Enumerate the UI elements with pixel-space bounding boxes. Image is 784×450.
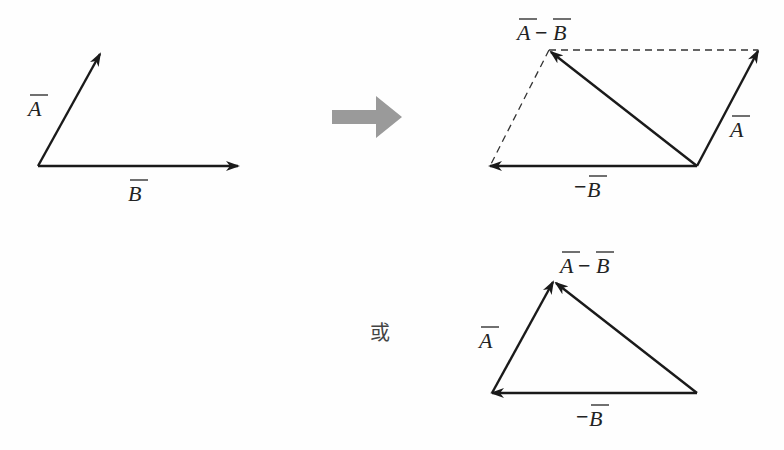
dashed-edge-left <box>490 50 549 166</box>
vector-a-arrow <box>697 51 758 166</box>
vector-diagram: A B A − B A − B 或 A − B A − B <box>0 0 784 450</box>
label-diff-b: B <box>553 20 566 45</box>
transform-arrow-icon <box>332 96 402 138</box>
label-neg-minus: − <box>574 174 587 199</box>
vector-a-arrow <box>38 54 100 166</box>
vector-diff-arrow <box>556 283 697 393</box>
label-a: A <box>728 117 744 142</box>
label-neg-b: B <box>589 406 602 431</box>
original-vectors: A B <box>26 54 238 206</box>
vector-a-arrow <box>492 282 553 393</box>
label-diff-a: A <box>558 253 574 278</box>
label-diff-minus: − <box>578 253 591 278</box>
label-a: A <box>26 96 42 121</box>
vector-diff-arrow <box>551 52 697 166</box>
label-a: A <box>477 328 493 353</box>
label-diff-a: A <box>515 20 531 45</box>
parallelogram-construction: A − B A − B <box>490 19 758 202</box>
label-neg-minus: − <box>576 404 589 429</box>
triangle-construction: A − B A − B <box>477 252 697 431</box>
label-diff-minus: − <box>535 20 548 45</box>
label-b: B <box>128 181 141 206</box>
label-neg-b: B <box>587 177 600 202</box>
or-text: 或 <box>370 321 390 345</box>
label-diff-b: B <box>596 253 609 278</box>
